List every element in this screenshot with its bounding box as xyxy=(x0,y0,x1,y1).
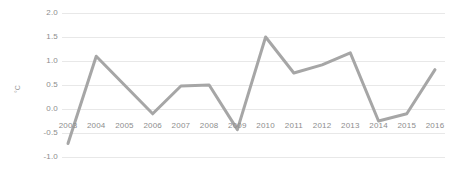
x-axis-tick-label: 2015 xyxy=(397,122,416,130)
x-axis-tick-label: 2009 xyxy=(228,122,247,130)
x-axis-tick-labels: 2003200420052006200720082009201020112012… xyxy=(62,0,445,189)
x-axis-tick-label: 2011 xyxy=(285,122,303,130)
y-axis-tick-label: 0.5 xyxy=(46,81,58,89)
x-axis-tick-label: 2007 xyxy=(172,122,191,130)
y-axis-tick-label: 0.0 xyxy=(46,105,58,113)
x-axis-tick-label: 2014 xyxy=(369,122,388,130)
y-axis-tick-labels: 2.01.51.00.50.0-0.5-1.0 xyxy=(22,0,60,189)
x-axis-tick-label: 2012 xyxy=(313,122,332,130)
x-axis-tick-label: 2006 xyxy=(143,122,162,130)
x-axis-tick-label: 2010 xyxy=(256,122,275,130)
x-axis-tick-label: 2016 xyxy=(426,122,445,130)
y-axis-tick-label: -1.0 xyxy=(43,153,58,161)
x-axis-tick-label: 2005 xyxy=(115,122,134,130)
line-chart: °C 2.01.51.00.50.0-0.5-1.0 2003200420052… xyxy=(0,0,453,189)
y-axis-tick-label: 1.0 xyxy=(46,57,58,65)
x-axis-tick-label: 2013 xyxy=(341,122,360,130)
y-axis-tick-label: -0.5 xyxy=(43,129,58,137)
x-axis-tick-label: 2004 xyxy=(87,122,106,130)
y-axis-tick-label: 1.5 xyxy=(46,33,58,41)
y-axis-tick-label: 2.0 xyxy=(46,9,58,17)
x-axis-tick-label: 2008 xyxy=(200,122,219,130)
x-axis-tick-label: 2003 xyxy=(59,122,78,130)
